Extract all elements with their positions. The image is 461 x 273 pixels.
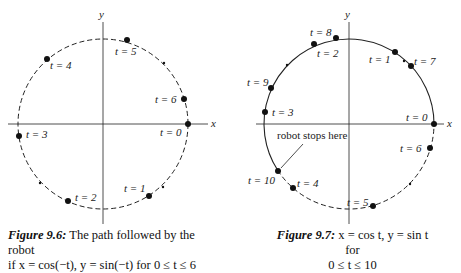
direction-arrow-icon (286, 64, 288, 66)
caption-line2: 0 ≤ t ≤ 10 (270, 258, 435, 273)
label-t2: t = 2 (75, 191, 97, 203)
figure-9-6-plot: x y t = 0 t = 1 t = 2 t = 3 t = 4 t = 5 … (8, 8, 216, 224)
point-t5 (370, 203, 376, 209)
point-t6 (181, 96, 187, 102)
label-t10: t = 10 (248, 174, 275, 186)
point-t1 (392, 49, 398, 55)
point-t9 (268, 85, 274, 91)
point-t5 (124, 37, 130, 43)
label-t1: t = 1 (369, 53, 390, 65)
label-t0: t = 0 (160, 126, 182, 138)
label-t6: t = 6 (155, 93, 177, 105)
x-axis-label: x (446, 117, 452, 129)
label-t4: t = 4 (50, 59, 72, 71)
point-t3 (262, 109, 268, 115)
label-t9: t = 9 (247, 76, 269, 88)
point-t0 (431, 121, 437, 127)
direction-arrow-icon (409, 183, 411, 185)
label-t2: t = 2 (317, 47, 339, 59)
label-t0: t = 0 (406, 111, 428, 123)
direction-arrow-icon (162, 186, 164, 188)
figure-9-7-plot: x y t = 0 t = 1 t = 2 t = 3 t = 4 t = 5 … (247, 8, 452, 224)
label-t8: t = 8 (310, 26, 332, 38)
direction-arrow-icon (403, 60, 405, 62)
point-t8 (333, 35, 339, 41)
point-t2 (65, 198, 71, 204)
caption-line1: x = cos t, y = sin t for (338, 228, 428, 257)
caption-figure-9-6: Figure 9.6: The path followed by the rob… (8, 228, 223, 273)
label-t3: t = 3 (272, 106, 294, 118)
caption-figure-9-7: Figure 9.7: x = cos t, y = sin t for 0 ≤… (270, 228, 435, 273)
label-t5: t = 5 (115, 45, 137, 57)
caption-line2: if x = cos(−t), y = sin(−t) for 0 ≤ t ≤ … (8, 258, 223, 273)
caption-title: Figure 9.7: (277, 228, 335, 242)
caption-title: Figure 9.6: (8, 228, 66, 242)
label-t5: t = 5 (347, 196, 369, 208)
annotation-arrow-icon (281, 144, 303, 168)
point-t3 (16, 133, 22, 139)
label-t1: t = 1 (124, 182, 145, 194)
annotation-robot-stops: robot stops here (277, 129, 347, 141)
point-t1 (146, 193, 152, 199)
label-t6: t = 6 (400, 142, 422, 154)
point-t6 (427, 145, 433, 151)
label-t4: t = 4 (297, 177, 319, 189)
label-t7: t = 7 (414, 55, 436, 67)
direction-arrow-icon (163, 62, 165, 64)
label-t3: t = 3 (26, 128, 48, 140)
direction-arrow-icon (39, 182, 41, 184)
y-axis-label: y (98, 8, 104, 20)
point-t10 (275, 168, 281, 174)
y-axis-label: y (344, 8, 350, 20)
point-t0 (185, 121, 191, 127)
point-t4 (290, 185, 296, 191)
x-axis-label: x (210, 117, 216, 129)
